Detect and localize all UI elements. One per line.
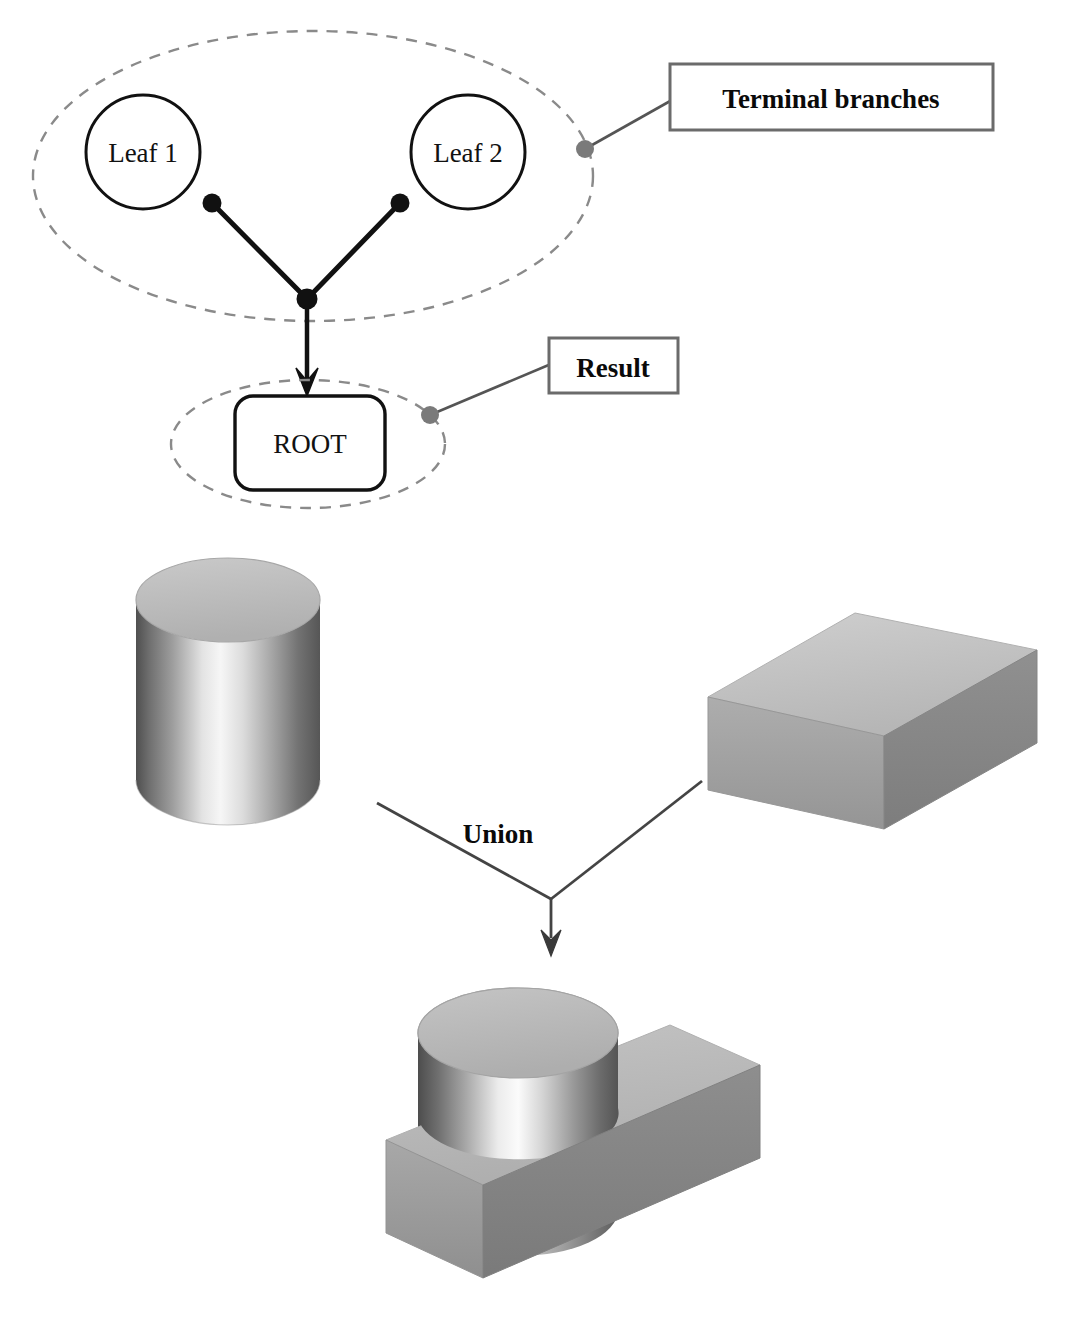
branch-left (212, 203, 307, 299)
leaf-node-1-label: Leaf 1 (108, 138, 178, 168)
result-anchor-dot (421, 406, 439, 424)
leaf-node-2-label: Leaf 2 (433, 138, 503, 168)
union-operation-label: Union (463, 819, 534, 849)
result-callout-label: Result (576, 353, 650, 383)
union-right-arm (551, 781, 702, 899)
terminal-branches-leader-line (585, 100, 672, 149)
operand-block (708, 613, 1037, 829)
terminal-branches-callout-label: Terminal branches (722, 84, 939, 114)
branch-right (307, 203, 400, 299)
result-cylinder-top-face-2 (418, 988, 618, 1078)
result-leader-line (430, 364, 551, 415)
union-result-solid (386, 988, 760, 1278)
terminal-branches-anchor-dot (576, 140, 594, 158)
leaf-2-connector-dot (391, 194, 410, 213)
root-node-label: ROOT (273, 429, 347, 459)
leaf-1-connector-dot (203, 194, 222, 213)
operand-cylinder (136, 558, 320, 825)
union-left-arm (377, 803, 551, 899)
operand-cylinder-top-face (136, 558, 320, 642)
diagram-svg: Leaf 1 Leaf 2 ROOT Terminal branches Res… (0, 0, 1073, 1333)
diagram-canvas: Leaf 1 Leaf 2 ROOT Terminal branches Res… (0, 0, 1073, 1333)
